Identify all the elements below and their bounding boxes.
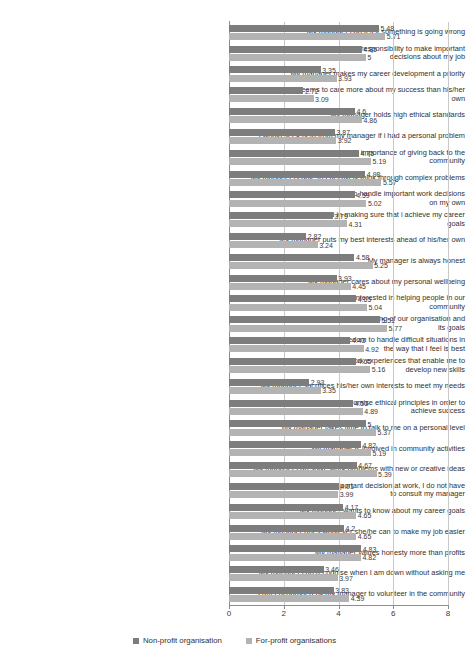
legend-item[interactable]: Non-profit organisation (133, 636, 222, 645)
bar-value-label: 4.89 (364, 408, 378, 415)
x-tick-mark (339, 605, 340, 609)
bar-non-profit (229, 87, 303, 94)
bar-group: 55.37 (229, 418, 448, 439)
bar-value-label: 3.93 (338, 75, 352, 82)
bar-chart: My manager can tell if something is goin… (0, 0, 469, 661)
bar-value-label: 4.65 (358, 512, 372, 519)
bar-non-profit (229, 483, 339, 490)
x-tick-mark (229, 605, 230, 609)
bar-value-label: 3.35 (322, 387, 336, 394)
bar-non-profit (229, 212, 333, 219)
bar-for-profit (229, 325, 387, 332)
bar-group: 4.655.16 (229, 355, 448, 376)
bar-for-profit (229, 512, 356, 519)
bar-for-profit (229, 304, 367, 311)
bar-value-label: 4.01 (340, 483, 354, 490)
bar-value-label: 3.99 (340, 491, 354, 498)
bar-for-profit (229, 54, 366, 61)
bar-value-label: 4.65 (358, 358, 372, 365)
bar-group: 5.515.77 (229, 314, 448, 335)
bar-non-profit (229, 295, 356, 302)
bar-value-label: 4.98 (367, 171, 381, 178)
gridline (448, 22, 449, 605)
bar-value-label: 4.53 (355, 400, 369, 407)
bar-for-profit (229, 95, 314, 102)
bar-value-label: 3.79 (334, 213, 348, 220)
bar-group: 2.933.35 (229, 376, 448, 397)
bar-value-label: 4.39 (351, 595, 365, 602)
bar-value-label: 4.31 (348, 221, 362, 228)
bar-value-label: 5.71 (387, 33, 401, 40)
bar-value-label: 3.46 (325, 566, 339, 573)
bar-group: 4.013.99 (229, 480, 448, 501)
x-tick-label: 6 (391, 609, 395, 619)
bar-for-profit (229, 179, 381, 186)
bar-for-profit (229, 366, 370, 373)
bar-value-label: 5.25 (374, 262, 388, 269)
bar-value-label: 2.72 (305, 88, 319, 95)
bar-non-profit (229, 337, 350, 344)
bar-value-label: 3.83 (335, 587, 349, 594)
legend-swatch-icon (133, 638, 139, 644)
bar-group: 4.985.57 (229, 168, 448, 189)
bar-for-profit (229, 408, 363, 415)
bar-non-profit (229, 566, 324, 573)
bar-value-label: 5 (367, 54, 371, 61)
chart-legend: Non-profit organisationFor-profit organi… (0, 636, 469, 645)
bar-value-label: 4.2 (345, 525, 355, 532)
bar-non-profit (229, 171, 365, 178)
legend-swatch-icon (246, 638, 252, 644)
bar-non-profit (229, 316, 380, 323)
bar-for-profit (229, 158, 371, 165)
legend-item[interactable]: For-profit organisations (246, 636, 336, 645)
bar-group: 5.485.71 (229, 22, 448, 43)
bar-value-label: 4.43 (352, 337, 366, 344)
bar-non-profit (229, 150, 359, 157)
bar-group: 4.655.04 (229, 293, 448, 314)
bar-value-label: 5.48 (381, 25, 395, 32)
bar-for-profit (229, 429, 376, 436)
bar-for-profit (229, 262, 373, 269)
bar-for-profit (229, 283, 351, 290)
bar-group: 3.463.97 (229, 563, 448, 584)
bar-for-profit (229, 470, 377, 477)
bar-value-label: 4.85 (363, 46, 377, 53)
bar-value-label: 3.93 (338, 275, 352, 282)
x-tick-label: 4 (336, 609, 340, 619)
bar-value-label: 4.86 (364, 117, 378, 124)
x-tick-label: 0 (227, 609, 231, 619)
bar-non-profit (229, 587, 334, 594)
bar-group: 3.873.92 (229, 126, 448, 147)
bar-for-profit (229, 491, 338, 498)
bar-for-profit (229, 241, 318, 248)
bar-non-profit (229, 441, 361, 448)
bar-for-profit (229, 574, 338, 581)
bar-value-label: 5 (367, 421, 371, 428)
bar-non-profit (229, 358, 356, 365)
bar-non-profit (229, 545, 361, 552)
bar-value-label: 5.51 (381, 317, 395, 324)
bar-value-label: 4.17 (345, 504, 359, 511)
bar-for-profit (229, 345, 364, 352)
bar-group: 2.723.09 (229, 84, 448, 105)
bar-group: 4.834.82 (229, 543, 448, 564)
bar-value-label: 4.65 (358, 533, 372, 540)
bar-non-profit (229, 462, 357, 469)
x-tick-mark (393, 605, 394, 609)
legend-label: For-profit organisations (256, 636, 336, 645)
bar-non-profit (229, 400, 353, 407)
x-tick-label: 8 (446, 609, 450, 619)
bar-group: 4.855 (229, 43, 448, 64)
bar-group: 4.595.02 (229, 189, 448, 210)
bar-value-label: 5.19 (373, 158, 387, 165)
bar-value-label: 4.65 (358, 296, 372, 303)
bar-group: 2.823.24 (229, 230, 448, 251)
bar-value-label: 5.37 (378, 429, 392, 436)
x-tick-label: 2 (282, 609, 286, 619)
bar-value-label: 3.97 (339, 575, 353, 582)
bar-value-label: 4.45 (352, 283, 366, 290)
bar-non-profit (229, 191, 355, 198)
bar-non-profit (229, 46, 362, 53)
bar-value-label: 4.67 (358, 462, 372, 469)
plot-area: 5.485.714.8553.353.932.723.094.64.863.87… (229, 22, 448, 605)
